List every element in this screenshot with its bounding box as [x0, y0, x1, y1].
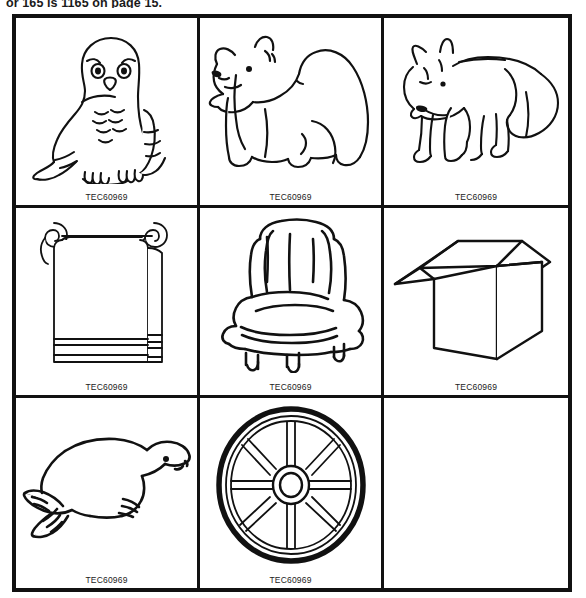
arctic-fox-illustration: [384, 18, 568, 189]
clipart-caption: TEC60969: [85, 382, 127, 392]
open-box-illustration: [384, 208, 568, 379]
clipart-caption: TEC60969: [455, 382, 497, 392]
clipart-caption: TEC60969: [269, 575, 311, 585]
clipart-caption: TEC60969: [455, 192, 497, 202]
clipart-cell-snowy-owl[interactable]: TEC60969: [16, 18, 200, 208]
clipart-cell-blank: [384, 398, 568, 588]
clipart-cell-towel-on-rack[interactable]: TEC60969: [16, 208, 200, 398]
clipart-grid: TEC60969: [12, 14, 572, 592]
wagon-wheel-illustration: [200, 398, 381, 572]
clipart-caption: TEC60969: [269, 192, 311, 202]
clipart-cell-arctic-fox[interactable]: TEC60969: [384, 18, 568, 208]
clipart-cell-open-box[interactable]: TEC60969: [384, 208, 568, 398]
blank-area: [384, 398, 568, 572]
clipart-caption: TEC60969: [85, 192, 127, 202]
clipart-cell-armchair[interactable]: TEC60969: [200, 208, 384, 398]
clipart-cell-polar-bear[interactable]: TEC60969: [200, 18, 384, 208]
armchair-illustration: [200, 208, 381, 379]
seal-illustration: [16, 398, 197, 572]
clipart-cell-seal[interactable]: TEC60969: [16, 398, 200, 588]
snowy-owl-illustration: [16, 18, 197, 189]
page-header-text: or 165 is 1165 on page 15.: [6, 0, 162, 8]
clipart-caption: TEC60969: [269, 382, 311, 392]
towel-on-rack-illustration: [16, 208, 197, 379]
clipart-cell-wagon-wheel[interactable]: TEC60969: [200, 398, 384, 588]
polar-bear-illustration: [200, 18, 381, 189]
clipart-caption: TEC60969: [85, 575, 127, 585]
